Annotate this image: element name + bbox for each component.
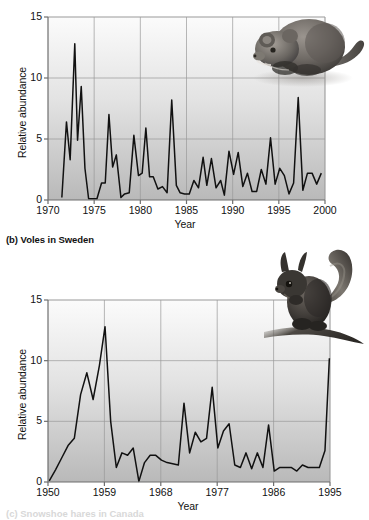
chart-b-x-tick: 1986 bbox=[254, 486, 294, 498]
panel-voles-sweden: (b) Voles in Sweden Relative abundance Y… bbox=[0, 232, 369, 520]
chart-a-y-tick: 15 bbox=[20, 10, 42, 22]
next-panel-caption-partial: (c) Snowshoe hares in Canada bbox=[0, 510, 369, 520]
chart-a-x-tick: 2000 bbox=[305, 204, 345, 216]
panel-voles-finland: Relative abundance Year 051015 197019751… bbox=[0, 0, 369, 232]
chart-a-y-tick: 5 bbox=[20, 132, 42, 144]
chart-a-y-tick: 10 bbox=[20, 71, 42, 83]
chart-b-y-tick: 15 bbox=[20, 293, 42, 305]
chart-a-x-tick: 1990 bbox=[213, 204, 253, 216]
squirrel-illustration bbox=[252, 246, 369, 350]
chart-b-x-tick: 1968 bbox=[141, 486, 181, 498]
vole-illustration bbox=[243, 6, 369, 90]
chart-b-y-tick: 10 bbox=[20, 354, 42, 366]
chart-b-x-tick: 1959 bbox=[84, 486, 124, 498]
chart-b-x-tick: 1950 bbox=[28, 486, 68, 498]
chart-a-x-tick: 1980 bbox=[120, 204, 160, 216]
chart-a-x-tick: 1970 bbox=[28, 204, 68, 216]
panel-b-caption: (b) Voles in Sweden bbox=[6, 234, 94, 245]
chart-a-x-tick: 1995 bbox=[259, 204, 299, 216]
chart-b-y-tick: 5 bbox=[20, 414, 42, 426]
chart-a-x-tick: 1975 bbox=[74, 204, 114, 216]
chart-a-x-tick: 1985 bbox=[167, 204, 207, 216]
chart-b-x-tick: 1977 bbox=[197, 486, 237, 498]
chart-a-x-axis-label: Year bbox=[140, 218, 230, 230]
chart-b-x-tick: 1995 bbox=[310, 486, 350, 498]
